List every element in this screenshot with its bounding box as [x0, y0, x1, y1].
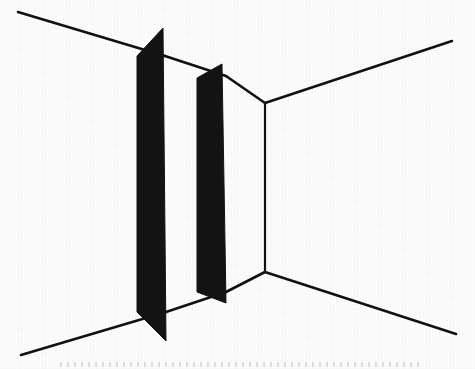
back-panel	[197, 64, 226, 303]
front-panel	[137, 28, 166, 341]
figure-canvas	[0, 0, 475, 369]
background-rect	[0, 0, 475, 369]
impossible-figure-drawing	[0, 0, 475, 369]
